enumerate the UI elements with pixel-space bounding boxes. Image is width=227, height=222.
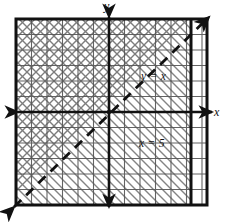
line-label-y-equals-x: y = x (141, 70, 166, 82)
y-axis-label: y (104, 0, 109, 14)
coordinate-plane-svg (0, 0, 227, 222)
origin-marker (107, 110, 111, 114)
line-label-x-equals-5: x = 5 (139, 137, 165, 149)
x-axis-label: x (214, 105, 219, 120)
graph-figure: y x y = x x = 5 (0, 0, 227, 222)
